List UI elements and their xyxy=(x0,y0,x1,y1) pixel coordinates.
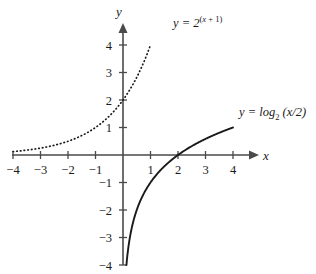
y-tick-label: −1 xyxy=(99,176,112,190)
y-tick-label: −4 xyxy=(99,259,113,273)
logarithm-label-lhs: y = log xyxy=(239,105,275,119)
logarithm-curve xyxy=(126,128,233,266)
y-tick-label: 3 xyxy=(106,66,112,80)
x-tick-label: −4 xyxy=(6,163,20,177)
x-axis-arrow-icon xyxy=(249,151,259,160)
x-tick-label: 1 xyxy=(147,163,153,177)
logarithm-label-arg: (x/2) xyxy=(279,105,306,119)
y-tick-label: 1 xyxy=(106,121,112,135)
coordinate-plot: −4−3−2−11234 4321−1−2−3−4 x y xyxy=(0,0,316,274)
x-tick-label: −3 xyxy=(34,163,47,177)
y-tick-label: −2 xyxy=(99,204,112,218)
x-tick-label: −1 xyxy=(89,163,102,177)
x-tick-label: 3 xyxy=(202,163,208,177)
graph-figure: −4−3−2−11234 4321−1−2−3−4 x y y = 2(x + … xyxy=(0,0,316,274)
y-axis-arrow-icon xyxy=(119,23,128,33)
exponential-curve xyxy=(13,45,151,152)
x-tick-label: 2 xyxy=(175,163,181,177)
y-tick-label: 2 xyxy=(106,94,112,108)
x-axis-label: x xyxy=(262,148,269,163)
x-tick-label: −2 xyxy=(61,163,74,177)
exponential-curve-label: y = 2(x + 1) xyxy=(173,14,222,31)
exponential-label-lhs: y = 2 xyxy=(173,16,199,30)
y-tick-label: −3 xyxy=(99,231,112,245)
exponential-label-exponent-close: ) xyxy=(219,14,222,24)
y-tick-label: 4 xyxy=(106,39,113,53)
y-axis-label: y xyxy=(114,4,122,19)
x-tick-label: 4 xyxy=(230,163,237,177)
x-axis-tick-labels: −4−3−2−11234 xyxy=(6,163,237,177)
logarithm-curve-label: y = log2 (x/2) xyxy=(239,105,306,122)
exponential-label-exponent-plus: + 1 xyxy=(206,14,219,24)
